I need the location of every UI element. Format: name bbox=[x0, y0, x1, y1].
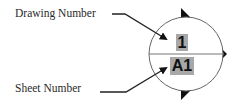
drawing-number-label: Drawing Number bbox=[15, 8, 96, 20]
sheet-number-label: Sheet Number bbox=[15, 83, 81, 95]
drawing-number-value: 1 bbox=[176, 34, 188, 51]
sheet-number-value: A1 bbox=[170, 57, 194, 75]
